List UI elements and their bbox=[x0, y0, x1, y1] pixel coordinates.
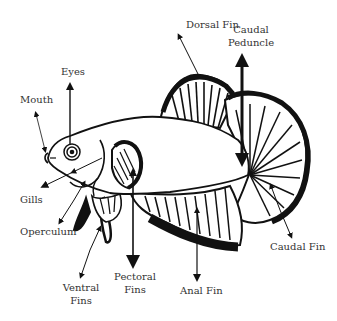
label-eyes: Eyes bbox=[61, 66, 85, 78]
fish-body bbox=[45, 117, 249, 196]
label-caudal-peduncle-line1: Caudal bbox=[225, 24, 277, 36]
label-mouth: Mouth bbox=[20, 94, 53, 106]
betta-anatomy-diagram: Dorsal Fin Caudal Peduncle Eyes Mouth Gi… bbox=[0, 0, 337, 321]
label-caudal-peduncle-line2: Peduncle bbox=[225, 37, 277, 49]
label-pectoral-fins-line2: Fins bbox=[112, 284, 158, 296]
label-operculum: Operculum bbox=[20, 226, 76, 238]
ventral-fins-shape bbox=[74, 194, 121, 242]
label-gills: Gills bbox=[20, 194, 43, 206]
label-caudal-fin: Caudal Fin bbox=[270, 241, 325, 253]
label-ventral-fins-line2: Fins bbox=[58, 295, 104, 307]
fish-illustration bbox=[0, 0, 337, 321]
label-pectoral-fins-line1: Pectoral bbox=[112, 271, 158, 283]
anal-fin-shape bbox=[130, 186, 242, 247]
label-ventral-fins-line1: Ventral bbox=[58, 282, 104, 294]
label-anal-fin: Anal Fin bbox=[180, 285, 223, 297]
